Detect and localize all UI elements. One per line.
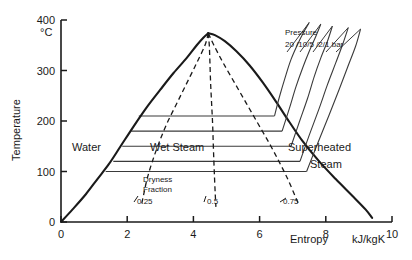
x-tick-label: 6: [257, 228, 263, 240]
chart-svg: 0100200300400 0246810 Temperature °C Ent…: [0, 0, 412, 260]
dryness-value-05: 0.5: [207, 197, 219, 206]
dryness-title-line2: Fraction: [143, 185, 172, 194]
ts-diagram-chart: 0100200300400 0246810 Temperature °C Ent…: [0, 0, 412, 260]
x-tick-label: 0: [58, 228, 64, 240]
y-axis-title: Temperature: [10, 99, 22, 161]
y-tick-label: 300: [37, 65, 55, 77]
x-tick-label: 10: [386, 228, 398, 240]
region-label-wet-steam: Wet Steam: [150, 141, 204, 153]
y-tick-label: 200: [37, 115, 55, 127]
x-tick-label: 2: [124, 228, 130, 240]
y-tick-label: 0: [49, 216, 55, 228]
x-axis-title: Entropy: [290, 233, 328, 245]
dryness-value-025: 0.25: [137, 197, 153, 206]
x-tick-label: 4: [190, 228, 196, 240]
region-label-superheated-line2: Steam: [310, 158, 342, 170]
pressure-values-label: 20 /10/5 /2/1 bar: [285, 40, 344, 49]
y-tick-label: 100: [37, 166, 55, 178]
pressure-title-label: Pressure: [285, 28, 318, 37]
region-label-water: Water: [72, 141, 101, 153]
region-label-superheated-line1: Superheated: [288, 141, 351, 153]
dryness-value-075: 0.75: [283, 197, 299, 206]
y-tick-label: 400: [37, 14, 55, 26]
dryness-title-line1: Dryness: [143, 175, 172, 184]
y-axis-unit: °C: [40, 26, 52, 38]
x-axis-unit: kJ/kgK: [352, 233, 386, 245]
